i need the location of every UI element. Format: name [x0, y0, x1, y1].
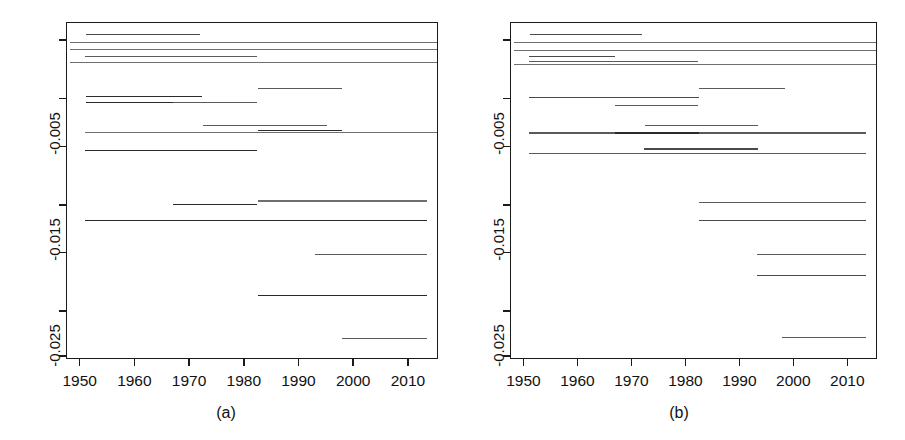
panel-caption-a: (a) — [0, 404, 452, 422]
x-axis-tick — [685, 359, 687, 366]
x-axis-tick — [134, 359, 136, 366]
x-axis-tick — [79, 359, 81, 366]
x-axis-label: 1970 — [601, 372, 661, 390]
x-axis-tick — [298, 359, 300, 366]
y-axis-label: -0.005 — [490, 98, 507, 168]
x-axis-label: 2010 — [378, 372, 438, 390]
x-axis-label: 1980 — [655, 372, 715, 390]
figure-container: -0.005-0.015-0.0251950196019701980199020… — [0, 0, 905, 440]
x-axis-label: 2000 — [323, 372, 383, 390]
x-axis-label: 1990 — [269, 372, 329, 390]
x-axis-label: 1960 — [547, 372, 607, 390]
y-axis-label: -0.025 — [46, 311, 63, 381]
x-axis-label: 1990 — [709, 372, 769, 390]
y-axis-label: -0.015 — [46, 204, 63, 274]
x-axis-tick — [352, 359, 354, 366]
x-axis-label: 1950 — [493, 372, 553, 390]
y-axis-label: -0.025 — [490, 311, 507, 381]
x-axis-label: 1980 — [214, 372, 274, 390]
x-axis-tick — [847, 359, 849, 366]
y-axis-tick — [503, 252, 510, 254]
plot-area-b — [510, 22, 877, 359]
x-axis-label: 2010 — [817, 372, 877, 390]
x-axis-tick — [243, 359, 245, 366]
y-axis-tick — [503, 39, 510, 41]
panel-caption-b: (b) — [453, 404, 905, 422]
y-axis-tick — [503, 146, 510, 148]
segment-layer-a — [67, 23, 438, 359]
y-axis-tick — [59, 252, 66, 254]
x-axis-tick — [188, 359, 190, 366]
y-axis-tick — [59, 39, 66, 41]
x-axis-tick — [407, 359, 409, 366]
panel-b: -0.005-0.015-0.0251950196019701980199020… — [453, 0, 905, 440]
y-axis-tick — [503, 355, 510, 357]
x-axis-label: 2000 — [763, 372, 823, 390]
plot-area-a — [66, 22, 438, 359]
x-axis-label: 1970 — [159, 372, 219, 390]
x-axis-tick — [523, 359, 525, 366]
panel-a: -0.005-0.015-0.0251950196019701980199020… — [0, 0, 452, 440]
y-axis-label: -0.005 — [46, 98, 63, 168]
y-axis-label: -0.015 — [490, 204, 507, 274]
y-axis-tick — [59, 355, 66, 357]
x-axis-tick — [631, 359, 633, 366]
x-axis-tick — [577, 359, 579, 366]
x-axis-label: 1950 — [50, 372, 110, 390]
y-axis-tick — [59, 146, 66, 148]
x-axis-tick — [793, 359, 795, 366]
x-axis-label: 1960 — [104, 372, 164, 390]
segment-layer-b — [511, 23, 877, 359]
x-axis-tick — [739, 359, 741, 366]
